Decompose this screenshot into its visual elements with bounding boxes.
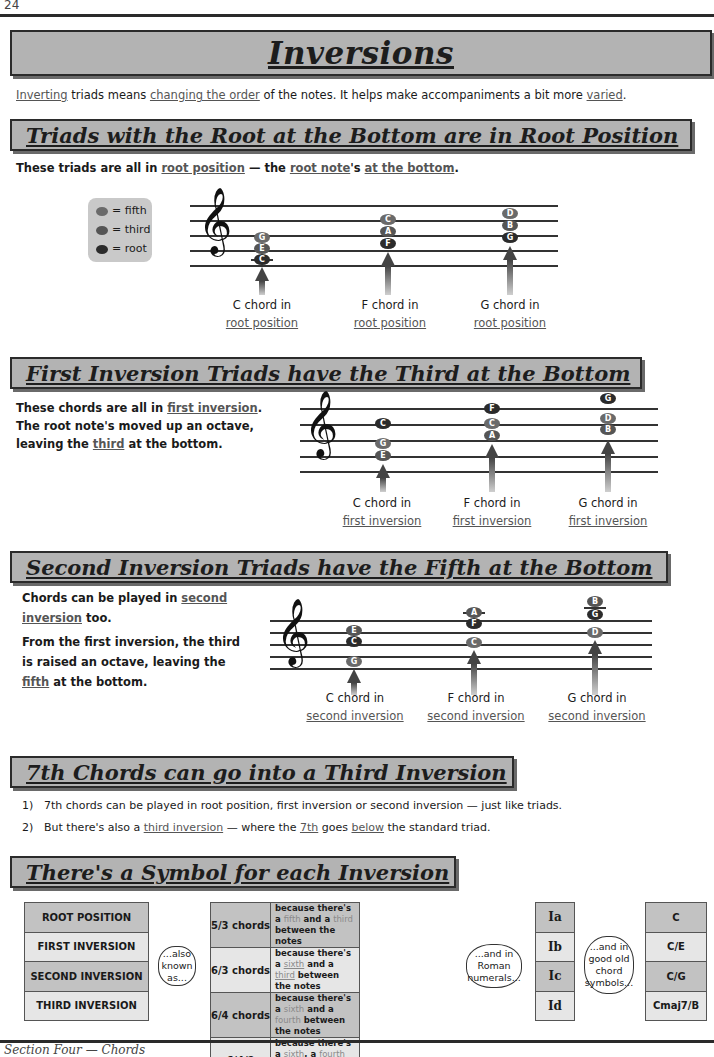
arrow-icon <box>376 464 390 492</box>
text-span: 5/3 chordsbecause there's a fifth and a … <box>211 903 360 948</box>
text-span: 's <box>350 161 364 175</box>
note: B <box>587 596 603 607</box>
text-span: . <box>258 401 262 415</box>
text-span: SECOND INVERSION <box>25 962 149 992</box>
note: E <box>254 243 270 254</box>
text-span: sixth <box>284 1004 305 1014</box>
roman-numerals-table: Ia Ib Ic Id <box>535 902 575 1021</box>
text-span: G chord inroot position <box>470 296 550 332</box>
text-span: because there's a sixth and a fourth bet… <box>271 993 360 1038</box>
text-span: These triads are all in <box>16 161 161 175</box>
text-span: 7th chords can be played in root positio… <box>44 799 562 812</box>
text-span: second inversion <box>548 707 646 725</box>
text-span: second <box>181 591 227 605</box>
section-heading-second-inversion: Second Inversion Triads have the Fifth a… <box>10 551 668 583</box>
text-span: because there's a fifth and a third betw… <box>271 903 360 948</box>
text-span: C <box>646 903 707 933</box>
text-span <box>485 444 499 458</box>
text-span: Ib <box>536 932 575 962</box>
note: C <box>484 418 500 429</box>
note: C <box>346 636 362 647</box>
note-color-legend: = fifth = third = root <box>88 198 152 262</box>
text-span: Ia <box>536 903 575 933</box>
text-span: C C/E C/G Cmaj7/B <box>646 903 707 1021</box>
text-span <box>601 440 615 454</box>
cloud-also-known-as: ...also known as... <box>158 946 196 986</box>
text-span <box>467 650 481 664</box>
text-span <box>347 669 361 683</box>
text-span: root position <box>350 314 430 332</box>
text-span: FIRST INVERSION <box>25 932 149 962</box>
text-span <box>385 266 391 295</box>
text-span: inversion <box>22 611 82 625</box>
text-span: = third <box>96 223 150 236</box>
text-span: Second Inversion Triads have the Fifth a… <box>26 555 652 580</box>
text-span: Ic <box>536 962 575 992</box>
note: F <box>466 618 482 629</box>
figured-bass-table: 5/3 chordsbecause there's a fifth and a … <box>210 902 360 1057</box>
text-span <box>381 252 395 266</box>
positions-table: ROOT POSITION FIRST INVERSION SECOND INV… <box>24 902 149 1021</box>
note: G <box>375 438 391 449</box>
text-span: G chord insecond inversion <box>548 689 646 725</box>
cloud-roman-numerals: ...and in Roman numerals... <box>466 944 522 988</box>
note: F <box>380 238 396 249</box>
arrow-icon <box>503 246 517 295</box>
text-span: at the bottom. <box>49 675 147 689</box>
text-span: changing the order <box>150 88 260 102</box>
note: C <box>375 418 391 429</box>
text-span: 2) <box>22 817 44 839</box>
arrow-icon <box>588 640 602 695</box>
note: C <box>466 637 482 648</box>
text-span: From the first inversion, the third <box>22 632 240 652</box>
text-span: of the notes. It helps make accompanimen… <box>260 88 587 102</box>
text-span: third <box>333 914 353 924</box>
note: G <box>600 393 616 404</box>
text-span: ROOT POSITION FIRST INVERSION SECOND INV… <box>25 903 149 1021</box>
text-span: Cmaj7/B <box>646 991 707 1021</box>
top-rule <box>0 14 714 17</box>
text-span: first inversion <box>340 512 424 530</box>
note: C <box>254 254 270 265</box>
text-span: root position <box>161 161 244 175</box>
text-span: fifth <box>284 914 301 924</box>
arrow-icon <box>601 440 615 492</box>
text-span: . <box>623 88 627 102</box>
text-span: second inversion <box>306 707 404 725</box>
text-span: 6/3 chords <box>211 948 271 993</box>
text-span: G chord in <box>470 296 550 314</box>
text-span: and a <box>301 914 334 924</box>
text-span: Chords can be played in second <box>22 588 240 608</box>
text-span: is raised an octave, leaving the <box>22 652 240 672</box>
text-span: C chord insecond inversion <box>306 689 404 725</box>
text-span <box>190 205 558 207</box>
seventh-list: 1)7th chords can be played in root posit… <box>22 795 562 839</box>
text-span <box>255 267 269 281</box>
note: G <box>587 609 603 620</box>
text-span: fourth <box>275 1015 301 1025</box>
text-span: C chord inroot position <box>222 296 302 332</box>
text-span: SECOND INVERSION <box>25 962 149 992</box>
text-span: Ia <box>536 903 575 933</box>
text-span: first inversion <box>450 512 534 530</box>
text-span: root position <box>222 314 302 332</box>
first-inversion-description: These chords are all in first inversion.… <box>16 399 262 453</box>
text-span <box>503 246 517 260</box>
text-span: first inversion <box>566 512 650 530</box>
text-span: second inversion <box>427 707 525 725</box>
text-span: Id <box>536 991 575 1021</box>
text-span: 6/4 chords <box>211 993 271 1038</box>
text-span: F chord in <box>450 494 534 512</box>
text-span: Ia Ib Ic Id <box>536 903 575 1021</box>
text-span: ROOT POSITION <box>25 903 149 933</box>
cloud-chord-symbols: ...and in good old chord symbols... <box>584 936 634 994</box>
note: G <box>502 232 518 243</box>
text-span: These chords are all in <box>16 401 167 415</box>
note: D <box>600 413 616 424</box>
text-span <box>259 281 265 295</box>
treble-clef-icon: 𝄞 <box>304 394 338 452</box>
text-span: 2)But there's also a third inversion — w… <box>22 817 562 839</box>
text-span: 1)7th chords can be played in root posit… <box>22 795 562 817</box>
text-span: Inverting <box>16 88 68 102</box>
text-span: = root <box>96 242 147 255</box>
